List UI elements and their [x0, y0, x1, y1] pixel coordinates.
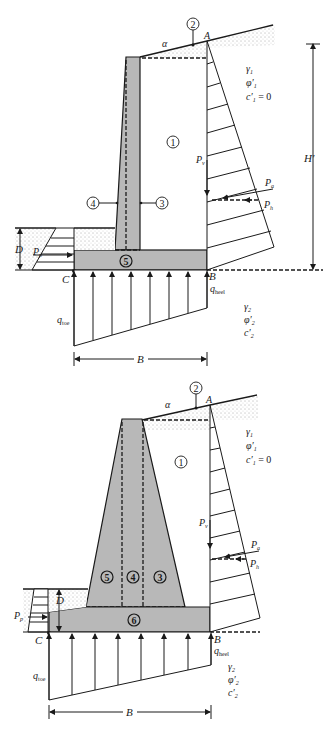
d-label-2: D — [55, 594, 64, 606]
b-width-label-2: B — [126, 706, 133, 718]
ph-label-2: Ph — [249, 558, 259, 570]
c2-label: c′2 — [244, 327, 254, 339]
svg-text:3: 3 — [158, 572, 163, 583]
ph-label: Ph — [263, 199, 273, 211]
gamma1-label-2: γ1 — [246, 426, 253, 438]
c1-label-2: c′1 = 0 — [246, 454, 271, 466]
backfill-soil-surface-2 — [142, 395, 258, 430]
phi2-label-2: φ′2 — [228, 674, 239, 686]
svg-text:4: 4 — [131, 572, 136, 583]
stem-concrete — [115, 57, 140, 250]
active-pressure-diagram — [207, 41, 274, 270]
svg-text:4: 4 — [91, 198, 96, 209]
pv-label: Pv — [195, 154, 205, 166]
q-heel-label: qheel — [210, 283, 225, 295]
phi2-label: φ′2 — [244, 314, 255, 326]
bearing-pressure-diagram — [74, 270, 207, 346]
cantilever-wall-diagram: Pp D Pv Pa Ph H′ γ1 φ′1 c′1 — [14, 18, 323, 366]
point-c-label-2: C — [35, 634, 43, 646]
d-label: D — [14, 243, 23, 255]
retaining-wall-figure: Pp D Pv Pa Ph H′ γ1 φ′1 c′1 — [0, 0, 323, 735]
gravity-wall-diagram: Pp D Pv Pa Ph γ1 φ′1 c′1 = 0 α A 2 1 — [13, 382, 271, 719]
svg-text:5: 5 — [105, 572, 110, 583]
point-a-label: A — [203, 30, 211, 41]
point-c-label: C — [62, 273, 70, 285]
alpha-label: α — [162, 38, 168, 49]
base-slab — [74, 250, 207, 270]
c2-label-2: c′2 — [228, 687, 238, 699]
point-b-label-2: B — [214, 633, 221, 645]
point-b-label: B — [209, 270, 216, 282]
c1-label: c′1 = 0 — [246, 91, 271, 103]
svg-text:2: 2 — [191, 19, 196, 30]
pa-label-2: Pa — [250, 539, 260, 551]
phi1-label: φ′1 — [246, 77, 257, 89]
bearing-pressure-diagram-2 — [49, 632, 211, 700]
svg-text:5: 5 — [124, 256, 129, 267]
q-toe-label: qtoe — [57, 314, 70, 326]
svg-text:1: 1 — [171, 137, 176, 148]
phi1-label-2: φ′1 — [246, 440, 257, 452]
q-heel-label-2: qheel — [214, 645, 229, 657]
svg-text:1: 1 — [179, 457, 184, 468]
svg-text:6: 6 — [132, 615, 137, 626]
gamma2-label-2: γ2 — [228, 661, 235, 673]
point-a-label-2: A — [205, 394, 213, 405]
pp-label-2: Pp — [13, 610, 23, 622]
gamma2-label: γ2 — [244, 301, 251, 313]
h-prime-label: H′ — [303, 152, 315, 164]
b-width-label: B — [137, 353, 144, 365]
alpha-label-2: α — [165, 399, 171, 410]
pa-label: Pa — [264, 177, 274, 189]
svg-text:3: 3 — [160, 198, 165, 209]
pv-label-2: Pv — [198, 517, 208, 529]
gamma1-label: γ1 — [246, 63, 253, 75]
svg-text:2: 2 — [194, 383, 199, 394]
q-toe-label-2: qtoe — [33, 670, 46, 682]
